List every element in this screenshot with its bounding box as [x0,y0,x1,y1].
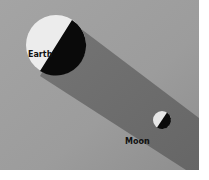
moon-label: Moon [125,137,150,146]
eclipse-diagram: Earth Moon [0,0,199,170]
earth-label: Earth [28,50,53,59]
diagram-canvas: Earth Moon [0,0,199,170]
moon [153,111,171,129]
